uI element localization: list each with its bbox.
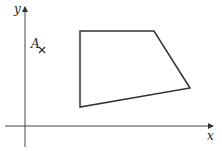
diagram-canvas: A y x	[0, 0, 222, 151]
quadrilateral	[80, 31, 190, 107]
x-axis-label: x	[207, 129, 214, 143]
point-a-label: A	[30, 37, 40, 51]
point-a-cross-icon	[39, 47, 45, 53]
y-axis-label: y	[13, 2, 21, 16]
coordinate-diagram: A y x	[0, 0, 222, 151]
